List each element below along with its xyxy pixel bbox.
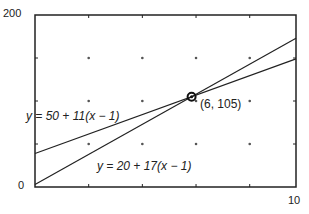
intersection-point-center (190, 95, 193, 98)
x-tick-10: 10 (288, 194, 300, 206)
line2-label: y = 20 + 17(x − 1) (97, 159, 191, 173)
line-50-11 (35, 59, 296, 154)
y-tick-0: 0 (18, 179, 24, 191)
line1-label: y = 50 + 11(x − 1) (26, 109, 120, 123)
intersection-label: (6, 105) (200, 97, 241, 111)
y-tick-200: 200 (3, 7, 21, 19)
chart-plot (0, 0, 309, 214)
